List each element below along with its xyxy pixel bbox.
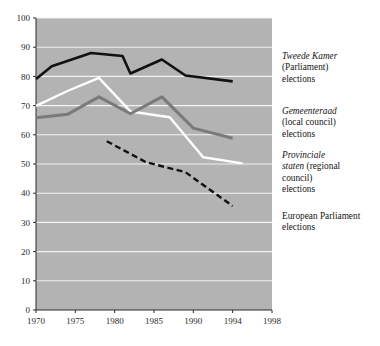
y-tick-label: 30 (21, 218, 31, 228)
legend-label-tweede-kamer-italic: Tweede Kamer (282, 51, 380, 62)
y-tick-label: 20 (21, 247, 31, 257)
legend-label-provinciale-italic2: staten (282, 161, 304, 171)
chart-figure: 0102030405060708090100 19701975198019851… (0, 0, 380, 346)
legend-label-european-line2: elections (282, 222, 380, 233)
y-tick-label: 10 (21, 276, 31, 286)
x-tick-label: 1980 (106, 316, 125, 326)
y-axis-ticks: 0102030405060708090100 (17, 13, 37, 315)
legend-label-provinciale-line4: elections (282, 184, 380, 195)
legend-item-provinciale-staten: Provinciale staten (regional council) el… (282, 150, 380, 196)
y-tick-label: 100 (17, 13, 31, 23)
y-tick-label: 80 (21, 72, 31, 82)
legend-label-provinciale-line3: council) (282, 173, 380, 184)
legend-label-gemeenteraad-line2: (local council) (282, 117, 380, 128)
x-tick-label: 1975 (66, 316, 85, 326)
y-tick-label: 0 (26, 305, 31, 315)
legend-item-tweede-kamer: Tweede Kamer (Parliament) elections (282, 51, 380, 85)
legend-label-gemeenteraad-italic: Gemeenteraad (282, 106, 380, 117)
x-tick-label: 1990 (184, 316, 203, 326)
legend-label-tweede-kamer-line3: elections (282, 74, 380, 85)
x-tick-label: 1970 (27, 316, 46, 326)
x-tick-label: 1998 (263, 316, 282, 326)
y-tick-label: 60 (21, 130, 31, 140)
legend-label-gemeenteraad-line3: elections (282, 129, 380, 140)
y-tick-label: 50 (21, 159, 31, 169)
x-axis-ticks: 1970197519801985199019941998 (27, 310, 282, 326)
y-tick-label: 70 (21, 101, 31, 111)
y-tick-label: 90 (21, 42, 31, 52)
legend-label-provinciale-rest2: (regional (304, 161, 340, 171)
legend-label-european-line1: European Parliament (282, 211, 380, 222)
chart-legend: Tweede Kamer (Parliament) elections Geme… (282, 0, 380, 346)
legend-item-gemeenteraad: Gemeenteraad (local council) elections (282, 106, 380, 140)
legend-label-tweede-kamer-line2: (Parliament) (282, 62, 380, 73)
legend-item-european-parliament: European Parliament elections (282, 211, 380, 234)
legend-label-provinciale-italic: Provinciale (282, 150, 380, 161)
x-tick-label: 1985 (145, 316, 164, 326)
y-tick-label: 40 (21, 188, 31, 198)
x-tick-label: 1994 (224, 316, 243, 326)
